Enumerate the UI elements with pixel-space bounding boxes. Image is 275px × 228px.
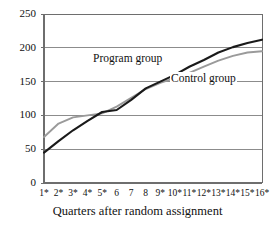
plot-frame <box>44 14 262 183</box>
y-axis-tick-label: 200 <box>10 42 36 53</box>
x-axis-title: Quarters after random assignment <box>0 204 275 219</box>
gridlines-group <box>41 14 262 183</box>
y-axis-tick-label: 250 <box>10 8 36 19</box>
y-axis-tick-label: 0 <box>10 177 36 188</box>
chart-figure: 050100150200250 1*2*3*4*5*6789*10*11*12*… <box>0 0 275 228</box>
x-axis-tick-label: 16* <box>251 188 273 198</box>
y-axis-tick-label: 150 <box>10 76 36 87</box>
series-label-program-group: Program group <box>92 52 163 64</box>
series-line-control-group <box>44 51 262 137</box>
y-axis-tick-label: 50 <box>10 143 36 154</box>
y-axis-tick-label: 100 <box>10 109 36 120</box>
series-label-control-group: Control group <box>170 72 237 84</box>
